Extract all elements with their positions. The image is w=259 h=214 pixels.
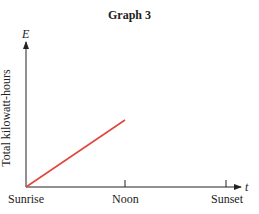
energy-line [26, 120, 125, 187]
y-axis-symbol: E [22, 27, 29, 42]
x-axis-symbol: t [245, 180, 248, 195]
chart-plot [0, 0, 259, 214]
x-tick-noon: Noon [112, 192, 139, 207]
y-axis-label: Total kilowatt-hours [0, 69, 14, 166]
x-tick-sunset: Sunset [211, 192, 243, 207]
x-tick-sunrise: Sunrise [8, 192, 44, 207]
